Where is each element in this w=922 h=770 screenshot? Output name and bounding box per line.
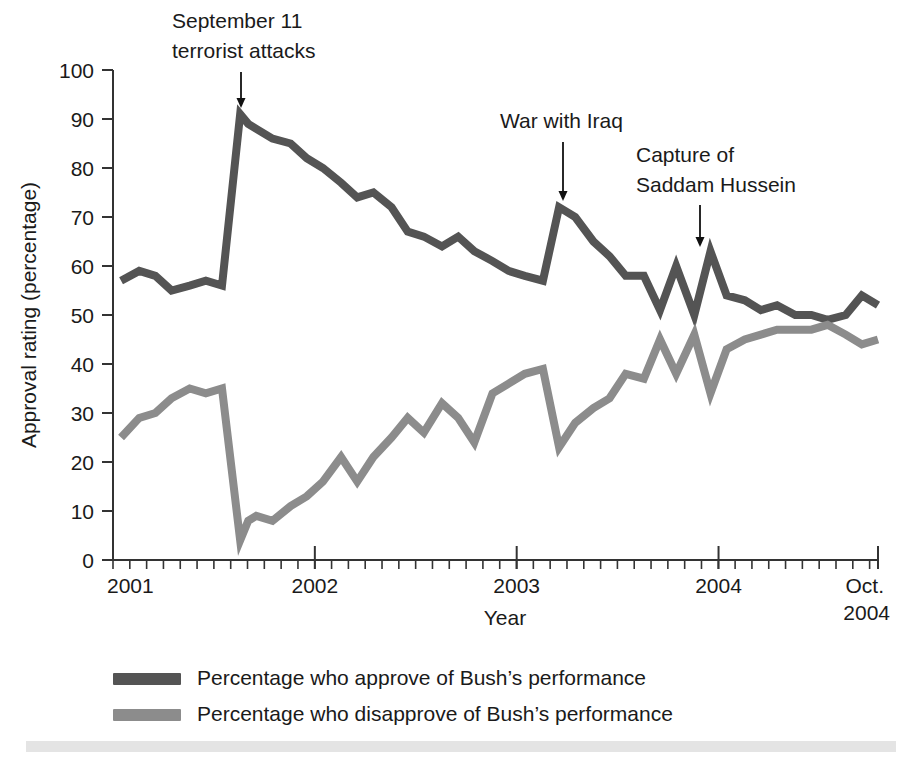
annotation-text-line2: Saddam Hussein <box>636 173 796 196</box>
legend-swatch-disapprove <box>113 709 181 721</box>
y-tick-label: 10 <box>71 500 94 523</box>
legend-label-disapprove: Percentage who disapprove of Bush’s perf… <box>197 702 673 725</box>
x-tick-label-last-line1: Oct. <box>845 574 884 597</box>
x-tick-label: 2003 <box>493 574 540 597</box>
y-tick-label: 60 <box>71 255 94 278</box>
annotation-text-line1: September 11 <box>172 9 302 32</box>
x-tick-label-last-line2: 2004 <box>843 601 890 624</box>
chart-background <box>0 0 922 770</box>
y-tick-label: 90 <box>71 108 94 131</box>
y-tick-label: 50 <box>71 304 94 327</box>
y-tick-label: 80 <box>71 157 94 180</box>
annotation-text-line2: terrorist attacks <box>172 39 316 62</box>
approval-rating-line-chart: 0102030405060708090100 2001200220032004O… <box>0 0 922 770</box>
y-tick-label: 70 <box>71 206 94 229</box>
legend-swatch-approve <box>113 673 181 685</box>
chart-figure: 0102030405060708090100 2001200220032004O… <box>0 0 922 770</box>
y-tick-label: 100 <box>59 59 94 82</box>
legend-label-approve: Percentage who approve of Bush’s perform… <box>197 666 646 689</box>
y-tick-label: 20 <box>71 451 94 474</box>
x-axis-title: Year <box>484 606 526 629</box>
x-tick-label: 2002 <box>291 574 338 597</box>
x-tick-label: 2001 <box>107 574 154 597</box>
y-tick-label: 0 <box>82 549 94 572</box>
y-tick-label: 30 <box>71 402 94 425</box>
footer-divider-bar <box>26 741 896 752</box>
y-axis-title: Approval rating (percentage) <box>17 182 40 448</box>
y-tick-label: 40 <box>71 353 94 376</box>
annotation-text-line1: Capture of <box>636 143 734 166</box>
x-tick-label: 2004 <box>695 574 742 597</box>
annotation-text-line1: War with Iraq <box>500 109 623 132</box>
